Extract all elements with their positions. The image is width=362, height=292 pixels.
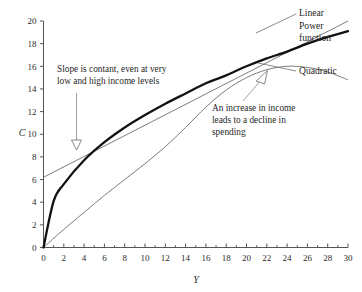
annotation-quadratic-line3: spending xyxy=(212,127,246,137)
annotation-quadratic-line2: leads to a decline in xyxy=(212,115,286,125)
chart-axes xyxy=(44,21,349,248)
curve-label-linear: Linear xyxy=(299,7,325,18)
x-tick-label: 8 xyxy=(122,253,127,263)
x-tick-label: 0 xyxy=(41,253,46,263)
annotation-quadratic-line1: An increase in income xyxy=(212,103,295,113)
y-axis-ticks: 02468101214161820 xyxy=(28,16,44,253)
x-tick-label: 24 xyxy=(283,253,293,263)
curve-label-power-function-line1: Power xyxy=(299,20,324,31)
y-tick-label: 20 xyxy=(28,16,38,26)
x-tick-label: 10 xyxy=(141,253,151,263)
x-tick-label: 12 xyxy=(161,253,170,263)
x-axis-label: Y xyxy=(193,274,200,285)
chart-canvas: 02468101214161820 0246810121416182022242… xyxy=(0,0,362,292)
x-tick-label: 30 xyxy=(344,253,354,263)
annotation-linear-slope-line1: Slope is contant, even at very xyxy=(57,64,167,74)
x-tick-label: 4 xyxy=(82,253,87,263)
x-tick-label: 16 xyxy=(201,253,211,263)
x-axis-ticks: 024681012141618202224262830 xyxy=(41,244,353,263)
y-axis-label: C xyxy=(19,127,26,138)
x-tick-label: 22 xyxy=(262,253,271,263)
y-tick-label: 16 xyxy=(28,62,38,72)
leader-line-linear xyxy=(256,14,296,33)
x-tick-label: 6 xyxy=(102,253,107,263)
x-tick-label: 26 xyxy=(303,253,313,263)
annotation-quadratic-decline-note: An increase in income leads to a decline… xyxy=(212,71,295,138)
y-tick-label: 14 xyxy=(28,84,38,94)
economics-consumption-function-chart: 02468101214161820 0246810121416182022242… xyxy=(0,0,362,292)
x-tick-label: 20 xyxy=(242,253,252,263)
x-tick-label: 28 xyxy=(323,253,333,263)
x-tick-label: 18 xyxy=(222,253,232,263)
y-tick-label: 6 xyxy=(32,175,37,185)
y-tick-label: 0 xyxy=(32,243,37,253)
curve-name-labels: Linear Power function Quadratic xyxy=(299,7,337,76)
y-tick-label: 4 xyxy=(32,197,37,207)
x-tick-label: 14 xyxy=(181,253,191,263)
annotation-linear-slope-line2: low and high income levels xyxy=(57,76,160,86)
y-tick-label: 12 xyxy=(28,107,37,117)
y-tick-label: 18 xyxy=(28,39,38,49)
y-tick-label: 8 xyxy=(32,152,37,162)
y-tick-label: 2 xyxy=(32,220,37,230)
curve-label-leaders xyxy=(256,14,296,71)
y-tick-label: 10 xyxy=(28,129,38,139)
annotation-linear-arrow-head xyxy=(72,140,82,150)
curve-label-power-function-line2: function xyxy=(299,32,331,43)
leader-line-quadratic xyxy=(258,63,296,71)
curve-label-quadratic: Quadratic xyxy=(299,65,337,76)
x-tick-label: 2 xyxy=(62,253,67,263)
chart-series-group xyxy=(44,21,349,248)
